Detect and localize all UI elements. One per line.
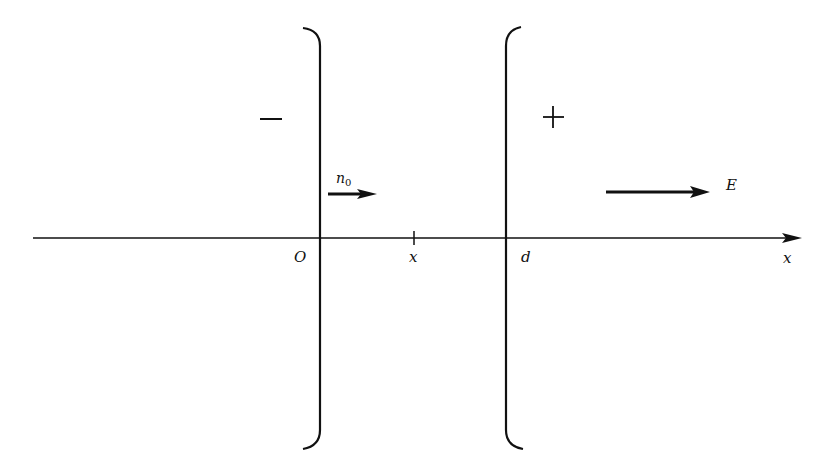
- plate-distance-label: d: [521, 248, 531, 266]
- capacitor-diagram: O x d x E n0: [0, 0, 818, 469]
- origin-label: O: [294, 248, 306, 266]
- plus-sign-icon: [543, 106, 564, 128]
- particle-flux-label: n0: [336, 170, 351, 188]
- point-x-label: x: [409, 248, 418, 266]
- electric-field-arrow-icon: [606, 186, 710, 198]
- particle-flux-arrow-icon: [328, 189, 377, 199]
- field-label: E: [725, 176, 737, 194]
- x-axis: [33, 233, 802, 243]
- axis-label: x: [783, 249, 792, 267]
